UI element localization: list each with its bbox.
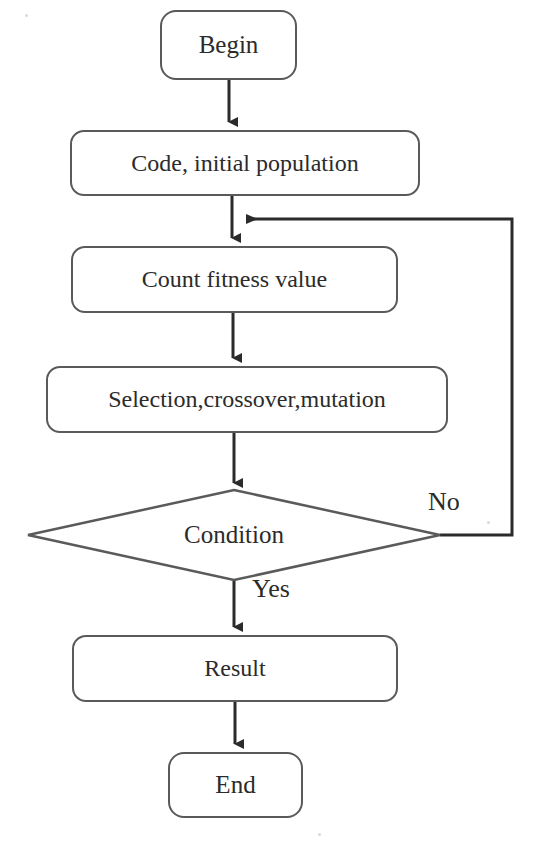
node-end-label: End xyxy=(215,771,255,799)
node-code-initial-population-label: Code, initial population xyxy=(131,150,358,176)
node-begin[interactable]: Begin xyxy=(160,10,297,80)
node-end[interactable]: End xyxy=(168,752,303,818)
flowchart-canvas: Begin Code, initial population Count fit… xyxy=(0,0,536,852)
scan-speck xyxy=(25,14,28,17)
node-begin-label: Begin xyxy=(199,31,259,59)
scan-speck xyxy=(487,521,490,524)
edge-label-yes: Yes xyxy=(252,574,290,604)
edge-label-no: No xyxy=(428,487,460,517)
node-condition[interactable]: Condition xyxy=(28,490,440,580)
node-count-fitness-value[interactable]: Count fitness value xyxy=(71,246,398,313)
node-result-label: Result xyxy=(204,655,265,681)
node-selection-crossover-mutation-label: Selection,crossover,mutation xyxy=(108,386,386,412)
node-result[interactable]: Result xyxy=(72,635,398,702)
node-selection-crossover-mutation[interactable]: Selection,crossover,mutation xyxy=(46,366,448,433)
scan-speck xyxy=(318,833,321,836)
node-code-initial-population[interactable]: Code, initial population xyxy=(70,130,420,196)
node-condition-label: Condition xyxy=(184,521,284,549)
node-count-fitness-value-label: Count fitness value xyxy=(142,266,327,292)
